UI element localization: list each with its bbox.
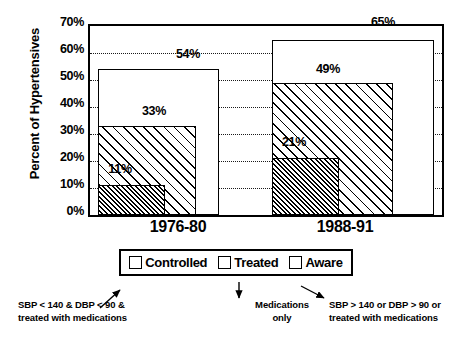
- bar-1976-80-controlled: [98, 185, 165, 215]
- y-tick-50: 50%: [40, 70, 84, 83]
- y-tick-40: 40%: [40, 97, 84, 110]
- legend-label-controlled: Controlled: [145, 255, 207, 270]
- plot-area: [88, 24, 444, 217]
- legend-item-aware: Aware: [289, 255, 342, 270]
- bar-label-1988-91-treated: 49%: [300, 62, 356, 76]
- y-tick-0: 0%: [40, 205, 84, 218]
- legend-label-treated: Treated: [234, 255, 278, 270]
- annotation-treated-line2: only: [243, 312, 321, 325]
- annotation-controlled: SBP < 140 & DBP < 90 & treated with medi…: [18, 299, 127, 325]
- legend-item-treated: Treated: [218, 255, 278, 270]
- y-tick-60: 60%: [40, 43, 84, 56]
- bar-1988-91-controlled: [272, 158, 339, 215]
- bar-chart: Percent of Hypertensives 70% 60% 50% 40%…: [0, 0, 472, 246]
- bar-label-1976-80-aware: 54%: [160, 47, 216, 61]
- annotation-aware-line2: treated with medications: [329, 312, 441, 325]
- annotation-aware-line1: SBP > 140 or DBP > 90 or: [329, 299, 441, 312]
- y-axis-tick-labels: 70% 60% 50% 40% 30% 20% 10% 0%: [40, 16, 84, 220]
- annotation-treated-line1: Medications: [243, 299, 321, 312]
- bar-label-1988-91-aware: 65%: [355, 15, 411, 29]
- annotation-controlled-line1: SBP < 140 & DBP < 90 &: [18, 299, 127, 312]
- y-tick-20: 20%: [40, 151, 84, 164]
- y-tick-10: 10%: [40, 178, 84, 191]
- bar-label-1976-80-treated: 33%: [126, 104, 182, 118]
- legend-item-controlled: Controlled: [129, 255, 207, 270]
- annotation-treated: Medications only: [243, 299, 321, 325]
- annotation-aware: SBP > 140 or DBP > 90 or treated with me…: [329, 299, 441, 325]
- bar-label-1988-91-controlled: 21%: [266, 135, 322, 149]
- y-tick-30: 30%: [40, 124, 84, 137]
- legend-swatch-treated-icon: [218, 256, 231, 269]
- legend-swatch-controlled-icon: [129, 256, 142, 269]
- legend-label-aware: Aware: [305, 255, 342, 270]
- legend-swatch-aware-icon: [289, 256, 302, 269]
- x-axis-label-1988-91: 1988-91: [285, 218, 405, 236]
- arrow-aware: [301, 286, 324, 298]
- chart-legend: Controlled Treated Aware: [119, 249, 353, 276]
- annotation-controlled-line2: treated with medications: [18, 312, 127, 325]
- y-tick-70: 70%: [40, 16, 84, 29]
- bar-label-1976-80-controlled: 11%: [92, 162, 148, 176]
- x-axis-label-1976-80: 1976-80: [118, 218, 238, 236]
